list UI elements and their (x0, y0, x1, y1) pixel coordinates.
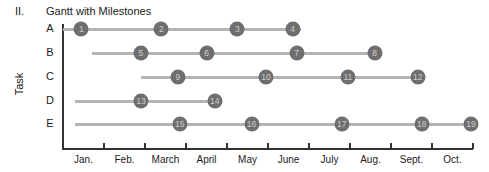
milestone-marker: 11 (340, 70, 355, 85)
task-label: A (44, 22, 56, 34)
milestone-marker: 8 (367, 46, 382, 61)
milestone-marker: 10 (258, 70, 273, 85)
section-number: II. (15, 5, 24, 17)
milestone-marker: 15 (172, 117, 187, 132)
x-tick-label: Sept. (392, 154, 432, 165)
milestone-marker: 13 (133, 94, 148, 109)
x-tick (308, 143, 310, 149)
task-label: E (44, 117, 56, 129)
milestone-marker: 12 (410, 70, 425, 85)
milestone-marker: 18 (414, 117, 429, 132)
milestone-marker: 7 (289, 46, 304, 61)
milestone-marker: 3 (230, 22, 245, 37)
x-tick (103, 143, 105, 149)
x-tick-label: Jan. (64, 154, 104, 165)
y-axis-label: Task (13, 73, 25, 96)
x-tick (226, 143, 228, 149)
x-tick-label: July (310, 154, 350, 165)
x-tick (431, 143, 433, 149)
x-tick-label: May (228, 154, 268, 165)
milestone-marker: 9 (170, 70, 185, 85)
milestone-marker: 17 (334, 117, 349, 132)
x-tick (390, 143, 392, 149)
milestone-marker: 4 (285, 22, 300, 37)
task-label: D (44, 94, 56, 106)
milestone-marker: 19 (463, 117, 478, 132)
x-tick (472, 143, 474, 149)
task-bar (75, 123, 469, 126)
milestone-marker: 14 (207, 94, 222, 109)
x-tick-label: March (146, 154, 186, 165)
milestone-marker: 5 (133, 46, 148, 61)
chart-title: Gantt with Milestones (46, 5, 151, 17)
x-tick (144, 143, 146, 149)
task-label: B (44, 46, 56, 58)
x-tick-label: Aug. (351, 154, 391, 165)
milestone-marker: 2 (154, 22, 169, 37)
x-tick-label: April (187, 154, 227, 165)
x-tick-label: Oct. (433, 154, 473, 165)
task-label: C (44, 70, 56, 82)
milestone-marker: 16 (244, 117, 259, 132)
x-tick (185, 143, 187, 149)
x-tick (349, 143, 351, 149)
y-axis-line (62, 24, 64, 149)
task-bar (63, 28, 301, 31)
x-tick-label: June (269, 154, 309, 165)
x-tick (267, 143, 269, 149)
x-tick-label: Feb. (105, 154, 145, 165)
milestone-marker: 1 (74, 22, 89, 37)
milestone-marker: 6 (199, 46, 214, 61)
